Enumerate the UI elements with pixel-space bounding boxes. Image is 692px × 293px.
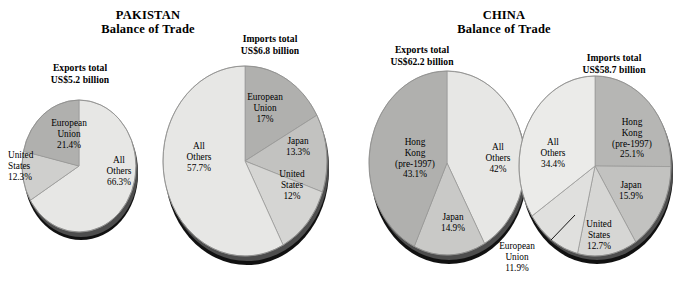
pie-slices-china-exports (369, 71, 525, 255)
pie-slices-china-imports (519, 76, 671, 256)
slice-label-china-imports-european-union: European Union 11.9% (484, 241, 550, 273)
total-label-pakistan-imports: Imports total US$6.8 billion (210, 33, 330, 56)
panel-title-china-line2: Balance of Trade (434, 22, 574, 36)
pie-slices-pakistan-imports (163, 66, 327, 256)
total-label-pakistan-imports-line1: Imports total (210, 33, 330, 45)
figure-canvas: PAKISTAN Balance of Trade Exports total … (0, 0, 692, 293)
total-label-china-exports-line1: Exports total (362, 44, 482, 56)
pie-slices-pakistan-exports (22, 100, 136, 232)
total-label-pakistan-exports: Exports total US$5.2 billion (20, 62, 140, 85)
pie-slice-hong-kong[interactable] (595, 76, 671, 167)
total-label-china-exports: Exports total US$62.2 billion (362, 44, 482, 67)
pie-chart-pakistan-imports (155, 62, 343, 274)
total-label-pakistan-imports-line2: US$6.8 billion (210, 45, 330, 57)
panel-title-china: CHINA Balance of Trade (434, 8, 574, 36)
total-label-china-imports-line1: Imports total (551, 52, 677, 64)
total-label-pakistan-exports-line1: Exports total (20, 62, 140, 74)
panel-title-pakistan-line2: Balance of Trade (78, 22, 218, 36)
total-label-pakistan-exports-line2: US$5.2 billion (20, 74, 140, 86)
panel-title-china-line1: CHINA (434, 8, 574, 22)
pie-svg-pakistan-exports (17, 96, 151, 244)
panel-title-pakistan-line1: PAKISTAN (78, 8, 218, 22)
panel-title-pakistan: PAKISTAN Balance of Trade (78, 8, 218, 36)
pie-svg-pakistan-imports (155, 62, 343, 274)
pie-chart-pakistan-exports (17, 96, 151, 244)
